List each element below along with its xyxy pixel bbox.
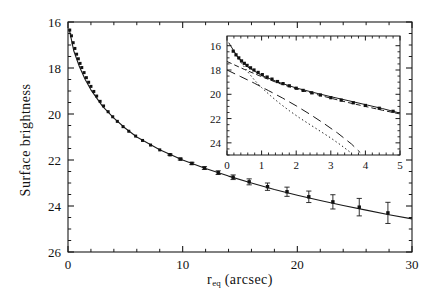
data-point (111, 115, 114, 118)
data-point (247, 180, 250, 183)
inset-y-tick-label: 22 (210, 113, 221, 125)
inset-data-point (364, 104, 367, 107)
inset-data-point (245, 64, 248, 67)
data-point (77, 57, 80, 60)
inset-data-point (288, 84, 291, 87)
data-point (307, 195, 310, 198)
data-point (102, 104, 105, 107)
data-point (107, 110, 110, 113)
inset-data-point (340, 99, 343, 102)
surface-brightness-figure: Surface brightness req (arcsec) 01020301… (0, 0, 440, 300)
data-point (85, 76, 88, 79)
data-point (70, 34, 73, 37)
inset-x-tick-label: 3 (328, 159, 334, 171)
inset-x-tick-label: 4 (363, 159, 369, 171)
x-axis-title-unit: (arcsec) (221, 272, 273, 287)
y-tick-label: 18 (48, 61, 61, 76)
inset-data-point (378, 107, 381, 110)
data-point (203, 166, 206, 169)
data-point (168, 153, 171, 156)
inset-data-point (232, 50, 235, 53)
data-point (158, 148, 161, 151)
data-point (89, 85, 92, 88)
y-axis-title: Surface brightness (18, 40, 34, 240)
inset-data-point (249, 66, 252, 69)
inset-data-point (310, 91, 313, 94)
inset-x-tick-label: 1 (259, 159, 265, 171)
inset-data-point (240, 59, 243, 62)
data-point (266, 185, 269, 188)
x-tick-label: 10 (176, 257, 189, 272)
inset-data-point (237, 56, 240, 59)
data-point (285, 190, 288, 193)
data-point (75, 53, 78, 56)
data-point (68, 29, 71, 32)
main-error-bars (167, 154, 390, 223)
data-point (79, 62, 82, 65)
inset-data-point (257, 71, 260, 74)
y-tick-label: 20 (48, 107, 61, 122)
inset-y-tick-label: 20 (210, 88, 222, 100)
inset-background (227, 36, 401, 156)
data-point (122, 125, 125, 128)
inset-data-point (391, 110, 394, 113)
data-point (83, 71, 86, 74)
y-tick-label: 24 (48, 199, 62, 214)
inset-data-point (302, 89, 305, 92)
data-point (72, 41, 75, 44)
data-point (179, 157, 182, 160)
inset-x-tick-label: 2 (293, 159, 299, 171)
inset-bg-rect (227, 36, 401, 156)
inset-data-point (276, 80, 279, 83)
y-tick-label: 16 (48, 15, 62, 30)
inset-y-tick-label: 16 (210, 40, 222, 52)
inset-data-point (266, 75, 269, 78)
inset-data-point (261, 73, 264, 76)
data-point (92, 90, 95, 93)
inset-data-point (270, 78, 273, 81)
inset-data-point (243, 62, 246, 65)
x-axis-title-subscript: eq (212, 278, 221, 288)
x-tick-label: 30 (406, 257, 419, 272)
x-tick-label: 0 (65, 257, 72, 272)
inset-data-point (352, 101, 355, 104)
inset-data-point (295, 87, 298, 90)
inset-data-point (319, 93, 322, 96)
data-point (149, 144, 152, 147)
inset-data-point (329, 96, 332, 99)
data-point (231, 176, 234, 179)
data-point (95, 95, 98, 98)
data-point (73, 47, 76, 50)
x-axis-title: req (arcsec) (150, 272, 330, 288)
data-point (134, 135, 137, 138)
data-point (80, 66, 83, 69)
inset-data-point (234, 53, 237, 56)
data-point (127, 130, 130, 133)
data-point (87, 81, 90, 84)
data-point (331, 200, 334, 203)
data-point (141, 139, 144, 142)
y-tick-label: 26 (48, 245, 62, 260)
x-tick-label: 20 (291, 257, 304, 272)
inset-data-point (281, 82, 284, 85)
data-point (116, 120, 119, 123)
data-point (217, 171, 220, 174)
y-tick-label: 22 (48, 153, 61, 168)
inset-x-tick-label: 0 (224, 159, 230, 171)
inset-x-tick-label: 5 (397, 159, 403, 171)
inset-data-point (252, 68, 255, 71)
data-point (358, 205, 361, 208)
inset-y-tick-label: 24 (210, 137, 222, 149)
plot-canvas: 0102030161820222426 0123451618202224 (0, 0, 440, 300)
inset-y-tick-label: 18 (210, 64, 222, 76)
data-point (99, 100, 102, 103)
data-point (190, 162, 193, 165)
data-point (386, 211, 389, 214)
